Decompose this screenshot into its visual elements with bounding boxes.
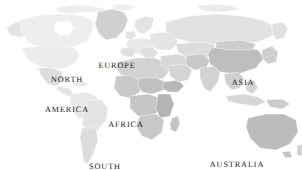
world-map: NORTH AMERICA EUROPE ASIA AFRICA SOUTH A…: [0, 0, 302, 170]
new-zealand-region: [297, 144, 302, 156]
world-map-svg: [0, 0, 302, 170]
